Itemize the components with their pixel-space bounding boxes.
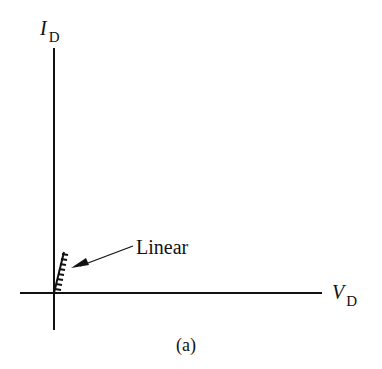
figure-caption: (a) xyxy=(176,336,196,354)
arrow-icon xyxy=(71,246,133,268)
y-axis-subscript: D xyxy=(49,29,60,45)
linear-region-hatched-line xyxy=(54,252,68,293)
linear-annotation: Linear xyxy=(136,237,188,257)
iv-diagram xyxy=(0,0,382,369)
x-axis-subscript: D xyxy=(346,293,357,309)
y-axis-label: ID xyxy=(40,18,60,38)
y-axis-symbol: I xyxy=(40,17,47,39)
x-axis-symbol: V xyxy=(332,281,344,303)
x-axis-label: VD xyxy=(332,282,357,302)
